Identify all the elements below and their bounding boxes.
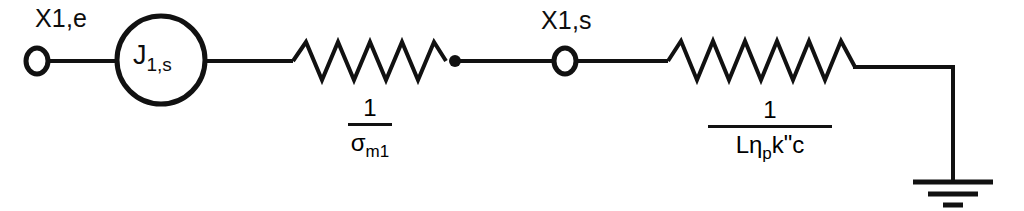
element-2-value-label: 1 Lηpk"c	[690, 98, 850, 157]
element-2-denominator-subscript: p	[762, 144, 771, 163]
source-element-label: J1,s	[133, 40, 172, 71]
spring-element-2	[668, 41, 855, 80]
element-1-numerator: 1	[325, 96, 415, 123]
element-1-denominator: σm1	[325, 126, 415, 155]
element-2-denominator-prefix: Lη	[736, 131, 763, 158]
source-subscript: 1,s	[147, 54, 172, 75]
middle-node-label: X1,s	[541, 6, 592, 35]
element-2-denominator-tail: c	[792, 131, 804, 158]
spring-element-1	[293, 42, 446, 80]
input-terminal-circle	[26, 48, 48, 74]
input-terminal-label: X1,e	[35, 4, 87, 33]
circuit-schematic-svg	[0, 0, 1024, 211]
circuit-diagram: X1,e J1,s X1,s 1 σm1 1 Lηpk"c	[0, 0, 1024, 211]
element-2-denominator: Lηpk"c	[690, 128, 850, 157]
element-2-denominator-suffix: k	[772, 131, 784, 158]
element-1-denominator-base: σ	[351, 129, 366, 156]
element-1-denominator-subscript: m1	[366, 142, 390, 161]
middle-node-circle	[554, 48, 576, 74]
element-2-denominator-prime: "	[784, 130, 793, 157]
element-1-value-label: 1 σm1	[325, 96, 415, 155]
source-symbol: J	[133, 40, 147, 70]
element-2-numerator: 1	[690, 98, 850, 125]
